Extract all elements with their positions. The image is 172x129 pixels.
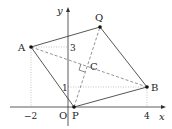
label-b: B xyxy=(151,82,158,93)
diagonal-ab xyxy=(31,47,147,87)
point-p xyxy=(72,105,76,109)
side-bp xyxy=(74,87,147,107)
label-q: Q xyxy=(95,12,103,23)
label-c: C xyxy=(90,61,98,72)
label-origin: O xyxy=(59,110,67,121)
point-q xyxy=(98,25,102,29)
tick-label-y-3: 3 xyxy=(70,43,76,53)
side-qb xyxy=(100,27,147,87)
label-y-axis: y xyxy=(56,5,63,16)
diagonals xyxy=(31,27,147,107)
point-a xyxy=(29,45,33,49)
side-pa xyxy=(31,47,74,107)
tick-label-x-neg2: −2 xyxy=(24,111,37,121)
coordinate-diagram: A Q B C P O x y −2 4 3 1 xyxy=(0,0,172,129)
point-b xyxy=(145,85,149,89)
x-axis-arrow-icon xyxy=(161,105,166,109)
tick-label-y-1: 1 xyxy=(62,83,68,93)
guide-lines xyxy=(31,47,147,107)
label-a: A xyxy=(17,42,26,53)
label-x-axis: x xyxy=(159,111,165,122)
y-axis-arrow-icon xyxy=(66,7,70,12)
label-p: P xyxy=(72,110,79,121)
tick-label-x-4: 4 xyxy=(144,111,150,121)
side-aq xyxy=(31,27,100,47)
